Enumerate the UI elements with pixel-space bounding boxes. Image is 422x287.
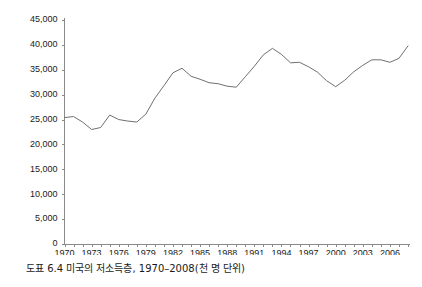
y-tick-label: 15,000 — [30, 164, 58, 174]
x-tick-label: 2006 — [380, 248, 400, 255]
x-tick-labels: 1970197319761979198219851988199119941997… — [54, 248, 399, 255]
y-tick-label: 5,000 — [35, 213, 58, 223]
x-tick-label: 1976 — [109, 248, 129, 255]
y-tick-label: 35,000 — [30, 64, 58, 74]
x-tick-label: 1997 — [299, 248, 319, 255]
x-tick-label: 1988 — [217, 248, 237, 255]
y-axis: 05,00010,00015,00020,00025,00030,00035,0… — [30, 14, 65, 248]
x-tick-label: 1970 — [54, 248, 74, 255]
y-tick-label: 10,000 — [30, 189, 58, 199]
y-tick-label: 45,000 — [30, 14, 58, 24]
y-tick-labels: 05,00010,00015,00020,00025,00030,00035,0… — [30, 14, 58, 248]
data-series-group — [65, 46, 409, 130]
line-chart: 05,00010,00015,00020,00025,00030,00035,0… — [0, 0, 422, 255]
y-tick-label: 40,000 — [30, 39, 58, 49]
y-tick-label: 0 — [52, 238, 57, 248]
y-tick-label: 20,000 — [30, 139, 58, 149]
x-tick-label: 1994 — [271, 248, 291, 255]
x-tick-label: 1982 — [163, 248, 183, 255]
x-tick-label: 2003 — [353, 248, 373, 255]
x-tick-label: 1979 — [136, 248, 156, 255]
x-axis: 1970197319761979198219851988199119941997… — [54, 244, 410, 255]
figure-container: 05,00010,00015,00020,00025,00030,00035,0… — [0, 0, 422, 287]
figure-caption: 도표 6.4 미국의 저소득층, 1970–2008(천 명 단위) — [26, 262, 416, 276]
y-tick-label: 30,000 — [30, 89, 58, 99]
x-tick-label: 2000 — [326, 248, 346, 255]
series-line-low-income — [65, 46, 409, 130]
x-tick-label: 1991 — [244, 248, 264, 255]
chart-plot-area: 05,00010,00015,00020,00025,00030,00035,0… — [0, 0, 422, 255]
x-tick-label: 1973 — [82, 248, 102, 255]
y-tick-label: 25,000 — [30, 114, 58, 124]
x-tick-label: 1985 — [190, 248, 210, 255]
